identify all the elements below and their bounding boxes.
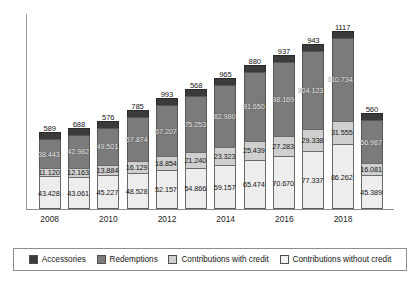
bar-2015[interactable]: 88091.65025.43965.474 [244,65,266,209]
bar-2019[interactable]: 56056.98716.08145.389 [361,113,383,209]
x-axis-line [26,209,394,210]
value-label-accessories: 785 [131,103,143,111]
value-label-redemptions: 98.169 [272,96,294,104]
legend-item-accessories[interactable]: Accessories [29,255,86,264]
bar-2008[interactable]: 58938.44311.12043.428 [39,132,61,209]
value-label-redemptions: 56.987 [360,139,382,147]
value-label-contributions-with-credit: 16.081 [360,166,382,174]
bar-slot: 58938.44311.12043.428 [35,14,64,209]
value-label-contributions-with-credit: 31.555 [331,129,353,137]
bar-2012[interactable]: 99367.20718.85452.157 [156,98,178,209]
value-label-accessories: 993 [161,91,173,99]
value-label-contributions-with-credit: 29.338 [302,137,324,145]
bar-segment-contributions-without-credit: 48.528 [127,173,149,209]
bar-segment-contributions-with-credit: 18.854 [156,156,178,170]
legend-item-redemptions[interactable]: Redemptions [97,255,158,264]
bar-2014[interactable]: 96582.98023.32359.157 [214,78,236,209]
bar-segment-redemptions: 75.253 [185,96,207,152]
bar-segment-contributions-with-credit: 23.323 [214,147,236,164]
value-label-contributions-without-credit: 77.337 [302,177,324,185]
bar-slot: 99367.20718.85452.157 [152,14,181,209]
bar-2017[interactable]: 943104.12329.33877.337 [302,44,324,209]
value-label-contributions-without-credit: 48.528 [126,188,148,196]
bar-segment-redemptions: 67.207 [156,105,178,155]
chart-legend: Accessories Redemptions Contributions wi… [13,248,407,271]
value-label-contributions-with-credit: 25.439 [243,147,265,155]
bar-segment-redemptions: 57.874 [127,117,149,160]
bar-segment-accessories: 785 [127,110,149,117]
value-label-redemptions: 75.253 [184,121,206,129]
legend-label-redemptions: Redemptions [110,255,158,264]
bar-slot: 56056.98716.08145.389 [357,14,386,209]
value-label-contributions-with-credit: 23.323 [214,153,236,161]
bar-segment-contributions-with-credit: 13.884 [97,165,119,175]
value-label-accessories: 943 [307,37,319,45]
value-label-contributions-with-credit: 21.240 [184,157,206,165]
bar-segment-contributions-with-credit: 11.120 [39,168,61,176]
bar-slot: 93798.16927.28370.670 [269,14,298,209]
value-label-contributions-with-credit: 13.884 [97,167,119,175]
bar-segment-redemptions: 38.443 [39,139,61,168]
stacked-bar-chart: 58938.44311.12043.42868842.98212.16343.0… [0,0,420,283]
bar-slot: 88091.65025.43965.474 [240,14,269,209]
bar-segment-contributions-without-credit: 45.389 [361,175,383,209]
legend-label-accessories: Accessories [42,255,86,264]
bar-segment-contributions-with-credit: 12.163 [68,168,90,177]
bar-slot: 96582.98023.32359.157 [211,14,240,209]
bar-segment-redemptions: 98.169 [273,62,295,136]
bar-segment-accessories: 1117 [332,31,354,38]
bar-2018[interactable]: 1117110.73431.55586.262 [332,31,354,209]
x-tick-label-2016: 2016 [275,214,294,224]
bar-segment-redemptions: 91.650 [244,72,266,141]
bar-segment-redemptions: 104.123 [302,51,324,129]
bar-segment-accessories: 589 [39,132,61,139]
bar-segment-accessories: 560 [361,113,383,120]
value-label-contributions-without-credit: 52.157 [155,186,177,194]
bar-2010[interactable]: 57649.50113.88445.227 [97,121,119,209]
value-label-contributions-without-credit: 43.061 [67,190,89,198]
bar-segment-contributions-without-credit: 59.157 [214,165,236,209]
bar-segment-contributions-without-credit: 52.157 [156,170,178,209]
bar-slot: 56875.25321.24054.866 [181,14,210,209]
value-label-redemptions: 57.874 [126,136,148,144]
value-label-contributions-with-credit: 18.854 [155,160,177,168]
bar-2009[interactable]: 68842.98212.16343.061 [68,128,90,209]
bar-segment-redemptions: 56.987 [361,120,383,163]
bar-slot: 68842.98212.16343.061 [64,14,93,209]
bar-2016[interactable]: 93798.16927.28370.670 [273,55,295,209]
contributions-without-credit-swatch-icon [280,255,289,264]
bar-segment-accessories: 880 [244,65,266,72]
value-label-accessories: 1117 [335,24,350,32]
value-label-redemptions: 110.734 [327,76,352,84]
value-label-contributions-without-credit: 86.262 [331,174,353,182]
bar-2011[interactable]: 78557.87416.12948.528 [127,110,149,209]
value-label-redemptions: 49.501 [97,143,119,151]
bar-segment-contributions-with-credit: 31.555 [332,121,354,145]
value-label-contributions-with-credit: 27.283 [272,143,294,151]
value-label-accessories: 576 [102,114,114,122]
value-label-contributions-without-credit: 43.428 [38,190,60,198]
legend-label-contributions-with-credit: Contributions with credit [181,255,268,264]
accessories-swatch-icon [29,255,38,264]
value-label-redemptions: 104.123 [298,87,324,95]
bar-segment-contributions-without-credit: 43.061 [68,177,90,209]
bar-segment-contributions-without-credit: 43.428 [39,176,61,209]
legend-item-contributions-with-credit[interactable]: Contributions with credit [168,255,268,264]
legend-item-contributions-without-credit[interactable]: Contributions without credit [280,255,392,264]
bar-segment-contributions-with-credit: 16.081 [361,163,383,175]
value-label-contributions-without-credit: 45.227 [97,189,119,197]
bar-segment-contributions-with-credit: 25.439 [244,141,266,160]
value-label-redemptions: 82.980 [214,113,236,121]
value-label-accessories: 965 [219,71,231,79]
bar-segment-contributions-without-credit: 77.337 [302,151,324,209]
x-tick-label-2018: 2018 [334,214,353,224]
bar-segment-accessories: 568 [185,89,207,96]
bar-2013[interactable]: 56875.25321.24054.866 [185,89,207,210]
x-tick-label-2012: 2012 [158,214,177,224]
bar-slot: 57649.50113.88445.227 [94,14,123,209]
legend-label-contributions-without-credit: Contributions without credit [293,255,392,264]
x-tick-label-2008: 2008 [40,214,59,224]
bar-segment-contributions-without-credit: 86.262 [332,144,354,209]
bar-slot: 1117110.73431.55586.262 [328,14,357,209]
value-label-redemptions: 91.650 [243,103,265,111]
